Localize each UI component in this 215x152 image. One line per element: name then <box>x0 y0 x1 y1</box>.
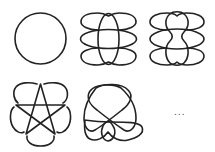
pentagram-knot-diagram <box>10 83 70 146</box>
pinched-loop-link-diagram <box>150 12 204 66</box>
knot-diagrams <box>0 0 215 152</box>
four-loop-link-diagram <box>81 13 137 65</box>
continuation-ellipsis: ... <box>174 107 186 117</box>
complex-knot-diagram <box>84 84 143 141</box>
unknot-diagram <box>15 13 66 64</box>
